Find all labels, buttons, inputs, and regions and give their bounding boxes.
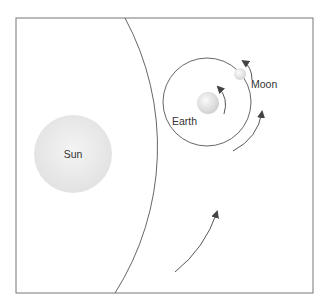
moon-circle	[234, 68, 246, 80]
sun: Sun	[34, 115, 112, 193]
orbit-diagram: Sun Earth Moon	[0, 0, 329, 304]
earth-label: Earth	[172, 115, 197, 127]
sun-label: Sun	[64, 148, 83, 160]
earth-circle	[197, 92, 219, 114]
moon-label: Moon	[251, 78, 277, 90]
